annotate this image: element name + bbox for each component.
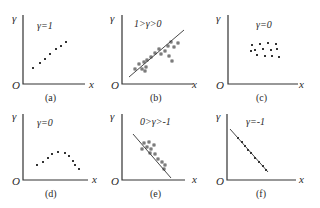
panel-b: γ x O 1>γ>0 (b) xyxy=(110,12,197,104)
axes xyxy=(23,114,88,180)
panel-caption: (f) xyxy=(256,188,266,200)
y-axis-label: γ xyxy=(110,110,115,122)
panel-annotation: γ=-1 xyxy=(246,116,265,127)
panel-f: γ x O γ=-1 (f) xyxy=(216,110,304,200)
regression-line xyxy=(129,30,184,77)
data-points xyxy=(32,41,67,69)
origin-label: O xyxy=(12,175,20,187)
correlation-figure: γ x O γ=1 (a) γ x O 1>γ>0 (b) xyxy=(0,0,320,208)
y-axis-label: γ xyxy=(12,12,17,24)
panel-caption: (c) xyxy=(256,92,267,104)
data-points xyxy=(141,141,166,170)
data-points xyxy=(237,137,267,171)
data-points xyxy=(36,151,80,170)
origin-label: O xyxy=(12,79,20,91)
panel-caption: (e) xyxy=(150,188,161,200)
origin-label: O xyxy=(111,79,119,91)
y-axis-label: γ xyxy=(216,110,221,122)
x-axis-label: x xyxy=(88,78,94,90)
panel-annotation: γ=0 xyxy=(37,117,53,128)
x-axis-label: x xyxy=(298,78,304,90)
panel-e: γ x O 0>γ>-1 (e) xyxy=(110,110,197,200)
x-axis-label: x xyxy=(91,173,97,185)
regression-line xyxy=(133,134,171,178)
panel-c: γ x O γ=0 (c) xyxy=(216,12,304,104)
panel-annotation: γ=0 xyxy=(256,19,272,30)
axes xyxy=(23,15,85,84)
x-axis-label: x xyxy=(298,173,304,185)
origin-label: O xyxy=(216,79,224,91)
panel-d: γ x O γ=0 (d) xyxy=(12,110,97,200)
y-axis-label: γ xyxy=(12,110,17,122)
origin-label: O xyxy=(216,175,224,187)
data-points xyxy=(250,42,280,58)
panel-annotation: 0>γ>-1 xyxy=(140,116,171,127)
origin-label: O xyxy=(111,175,119,187)
panel-caption: (a) xyxy=(45,92,56,104)
y-axis-label: γ xyxy=(216,12,221,24)
panel-caption: (d) xyxy=(45,188,57,200)
y-axis-label: γ xyxy=(110,12,115,24)
x-axis-label: x xyxy=(191,78,197,90)
panel-annotation: 1>γ>0 xyxy=(134,18,161,29)
panel-caption: (b) xyxy=(150,92,162,104)
x-axis-label: x xyxy=(191,173,197,185)
panel-a: γ x O γ=1 (a) xyxy=(12,12,94,104)
panel-annotation: γ=1 xyxy=(37,20,53,31)
